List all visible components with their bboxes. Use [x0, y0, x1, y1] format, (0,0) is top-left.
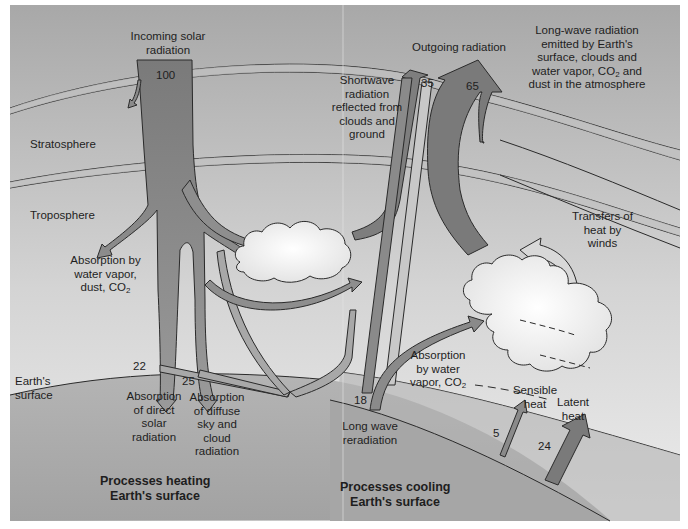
direct-value: 22 — [133, 360, 146, 372]
longwave-reradiation-label: Long wave reradiation — [340, 420, 400, 447]
cooling-caption: Processes cooling Earth's surface — [340, 480, 450, 510]
longwave-emitted-line: dust in the atmosphere — [512, 78, 662, 92]
shortwave-out-value: 35 — [421, 77, 434, 89]
diffuse-absorption-label: Absorption of diffuse sky and cloud radi… — [187, 391, 247, 459]
troposphere-label: Troposphere — [30, 209, 95, 223]
incoming-solar-label: Incoming solar radiation — [118, 30, 218, 57]
absorption-vapor-label: Absorption by water vapor, CO2 — [408, 349, 468, 390]
longwave-out-value: 65 — [466, 80, 479, 92]
absorption-atmosphere-label: Absorption by water vapor, dust, CO2 — [63, 254, 148, 295]
direct-absorption-label: Absorption of direct solar radiation — [124, 390, 184, 444]
longwave-emitted-line: water vapor, CO2 and — [512, 65, 662, 79]
sensible-value: 5 — [493, 427, 499, 439]
diffuse-value: 25 — [182, 375, 195, 387]
transfers-label: Transfers of heat by winds — [565, 210, 640, 251]
stratosphere-label: Stratosphere — [30, 138, 96, 152]
earths-surface-label: Earth's surface — [15, 375, 75, 402]
latent-heat-label: Latent heat — [548, 396, 598, 423]
shortwave-reflected-label: Shortwave radiation reflected from cloud… — [327, 74, 407, 142]
reradiation-value: 18 — [354, 394, 367, 406]
heating-caption: Processes heating Earth's surface — [100, 474, 210, 504]
longwave-emitted-line: Long-wave radiation — [512, 24, 662, 38]
longwave-emitted-label: Long-wave radiation emitted by Earth's s… — [512, 24, 662, 92]
longwave-emitted-line: emitted by Earth's — [512, 38, 662, 52]
energy-budget-diagram: Stratosphere Troposphere Earth's surface… — [0, 0, 688, 529]
incoming-value: 100 — [156, 69, 175, 81]
outgoing-radiation-label: Outgoing radiation — [412, 41, 506, 55]
longwave-emitted-line: surface, clouds and — [512, 51, 662, 65]
latent-value: 24 — [538, 440, 551, 452]
